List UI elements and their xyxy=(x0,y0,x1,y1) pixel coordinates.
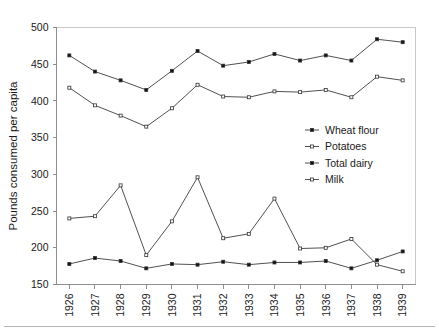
x-tick-label: 1938 xyxy=(371,293,383,317)
data-point-marker xyxy=(68,217,71,220)
data-point-marker xyxy=(299,247,302,250)
data-point-marker xyxy=(376,259,379,262)
data-point-marker xyxy=(68,262,71,265)
data-point-marker xyxy=(145,125,148,128)
legend-swatch-marker xyxy=(311,178,314,181)
data-point-marker xyxy=(247,61,250,64)
data-point-marker xyxy=(170,220,173,223)
legend-label: Potatoes xyxy=(325,140,366,152)
legend-swatch-marker xyxy=(311,162,314,165)
data-point-marker xyxy=(350,237,353,240)
legend-swatch-marker xyxy=(311,145,314,148)
data-point-marker xyxy=(247,263,250,266)
legend-swatch-marker xyxy=(311,129,314,132)
line-chart: 500450400350300250200150 Pounds consumed… xyxy=(0,0,439,333)
data-point-marker xyxy=(170,107,173,110)
data-point-marker xyxy=(247,232,250,235)
data-point-marker xyxy=(196,49,199,52)
data-point-marker xyxy=(401,250,404,253)
data-point-marker xyxy=(273,52,276,55)
data-point-marker xyxy=(401,79,404,82)
y-tick-label: 350 xyxy=(31,131,49,143)
data-point-marker xyxy=(401,270,404,273)
data-point-marker xyxy=(273,197,276,200)
x-tick-label: 1935 xyxy=(294,293,306,317)
x-tick-label: 1936 xyxy=(320,293,332,317)
x-tick-label: 1934 xyxy=(268,293,280,317)
data-point-marker xyxy=(119,79,122,82)
y-tick-label: 150 xyxy=(31,278,49,290)
data-point-marker xyxy=(196,176,199,179)
y-tick-label: 450 xyxy=(31,58,49,70)
x-tick-label: 1937 xyxy=(345,293,357,317)
data-point-marker xyxy=(299,261,302,264)
data-point-marker xyxy=(324,246,327,249)
y-tick-label: 500 xyxy=(31,21,49,33)
y-tick-label: 250 xyxy=(31,205,49,217)
data-point-marker xyxy=(273,90,276,93)
data-point-marker xyxy=(119,260,122,263)
data-point-marker xyxy=(350,59,353,62)
y-tick-label: 200 xyxy=(31,241,49,253)
legend-label: Wheat flour xyxy=(325,124,379,136)
data-point-marker xyxy=(145,267,148,270)
x-tick-label: 1931 xyxy=(191,293,203,317)
data-point-marker xyxy=(145,254,148,257)
data-point-marker xyxy=(299,91,302,94)
y-axis-title: Pounds consumed per capita xyxy=(7,81,19,231)
data-point-marker xyxy=(222,95,225,98)
data-point-marker xyxy=(376,75,379,78)
x-tick-label: 1926 xyxy=(63,293,75,317)
data-point-marker xyxy=(350,96,353,99)
x-tick-label: 1930 xyxy=(166,293,178,317)
data-point-marker xyxy=(222,64,225,67)
legend-label: Milk xyxy=(325,173,344,185)
data-point-marker xyxy=(376,38,379,41)
chart-container: 500450400350300250200150 Pounds consumed… xyxy=(0,0,439,333)
x-tick-label: 1928 xyxy=(114,293,126,317)
data-point-marker xyxy=(376,263,379,266)
x-tick-label: 1932 xyxy=(217,293,229,317)
data-point-marker xyxy=(93,70,96,73)
data-point-marker xyxy=(324,88,327,91)
data-point-marker xyxy=(119,184,122,187)
data-point-marker xyxy=(170,262,173,265)
data-point-marker xyxy=(324,54,327,57)
data-point-marker xyxy=(93,215,96,218)
data-point-marker xyxy=(401,41,404,44)
data-point-marker xyxy=(299,59,302,62)
data-point-marker xyxy=(222,237,225,240)
x-tick-label: 1939 xyxy=(396,293,408,317)
data-point-marker xyxy=(247,96,250,99)
data-point-marker xyxy=(93,104,96,107)
data-point-marker xyxy=(119,114,122,117)
x-tick-label: 1929 xyxy=(140,293,152,317)
data-point-marker xyxy=(68,54,71,57)
x-tick-label: 1933 xyxy=(243,293,255,317)
data-point-marker xyxy=(324,260,327,263)
data-point-marker xyxy=(196,83,199,86)
y-axis-title-group: Pounds consumed per capita xyxy=(7,81,19,231)
data-point-marker xyxy=(350,267,353,270)
y-tick-label: 400 xyxy=(31,95,49,107)
x-tick-label: 1927 xyxy=(89,293,101,317)
data-point-marker xyxy=(93,257,96,260)
data-point-marker xyxy=(68,86,71,89)
data-point-marker xyxy=(145,88,148,91)
legend-label: Total dairy xyxy=(325,157,374,169)
y-tick-label: 300 xyxy=(31,168,49,180)
chart-background xyxy=(0,0,439,333)
data-point-marker xyxy=(196,263,199,266)
data-point-marker xyxy=(222,260,225,263)
data-point-marker xyxy=(170,69,173,72)
data-point-marker xyxy=(273,261,276,264)
